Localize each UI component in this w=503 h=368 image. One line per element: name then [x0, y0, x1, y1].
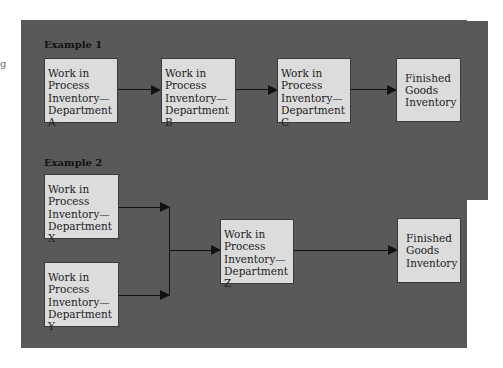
arrow-line-merge-z — [169, 250, 213, 251]
box-text: Work in Process Inventory— Department A — [48, 67, 117, 128]
example-1-label: Example 1 — [44, 39, 102, 50]
box-wip-dept-a: Work in Process Inventory— Department A — [44, 58, 118, 123]
box-text: Finished Goods Inventory — [405, 72, 456, 109]
box-finished-goods-1: Finished Goods Inventory — [396, 58, 461, 122]
arrow-line-x — [119, 207, 161, 208]
box-text: Work in Process Inventory— Department B — [165, 67, 235, 128]
box-text: Work in Process Inventory— Department Z — [224, 228, 293, 289]
box-wip-dept-b: Work in Process Inventory— Department B — [161, 58, 236, 123]
arrow-head-icon — [151, 85, 161, 95]
box-text: Finished Goods Inventory — [406, 232, 457, 269]
merge-line-vertical — [169, 207, 170, 296]
arrow-head-icon — [388, 245, 398, 255]
box-text: Work in Process Inventory— Department X — [48, 183, 118, 244]
box-wip-dept-c: Work in Process Inventory— Department C — [277, 58, 351, 123]
arrow-line-y — [119, 295, 161, 296]
arrow-line-b-c — [236, 89, 270, 90]
box-text: Work in Process Inventory— Department C — [281, 67, 350, 128]
box-wip-dept-z: Work in Process Inventory— Department Z — [220, 219, 294, 284]
arrow-line-z-fg — [294, 250, 390, 251]
arrow-head-icon — [387, 85, 397, 95]
box-wip-dept-x: Work in Process Inventory— Department X — [44, 174, 119, 239]
example-2-label: Example 2 — [44, 157, 102, 168]
arrow-line-c-fg — [351, 89, 389, 90]
arrow-head-icon — [268, 85, 278, 95]
arrow-head-icon — [211, 245, 221, 255]
box-wip-dept-y: Work in Process Inventory— Department Y — [44, 262, 119, 327]
box-finished-goods-2: Finished Goods Inventory — [397, 218, 461, 283]
box-text: Work in Process Inventory— Department Y — [48, 271, 118, 332]
margin-mark: g — [0, 58, 4, 72]
arrow-line-a-b — [118, 89, 154, 90]
